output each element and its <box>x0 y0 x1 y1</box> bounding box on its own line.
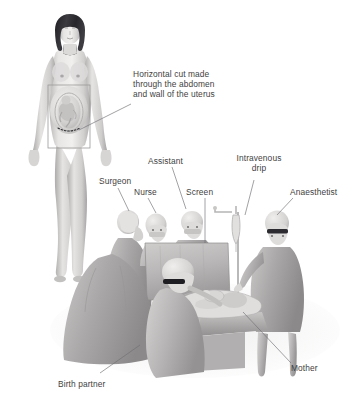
anaesthetist-eye-left <box>271 235 273 237</box>
left-foot <box>54 276 66 282</box>
label-nurse: Nurse <box>134 187 157 197</box>
left-nipple <box>60 74 64 77</box>
left-breast <box>52 62 70 82</box>
right-hand <box>101 150 112 166</box>
label-anaesthetist: Anaesthetist <box>290 187 337 197</box>
right-breast <box>70 62 88 82</box>
caesarean-illustration <box>0 0 361 404</box>
right-nipple <box>76 74 80 77</box>
assistant-eye-right <box>196 226 198 228</box>
left-hand <box>29 150 40 166</box>
label-intravenous-drip: Intravenousdrip <box>228 153 290 173</box>
anaesthetist-eye-right <box>282 235 284 237</box>
leaning-surgeon-mask <box>163 279 185 284</box>
label-screen: Screen <box>186 187 213 197</box>
neck <box>63 44 77 55</box>
label-surgeon: Surgeon <box>99 176 131 186</box>
fetus-head <box>61 95 70 104</box>
fetus-in-utero <box>55 93 83 131</box>
label-assistant: Assistant <box>148 156 183 166</box>
nurse-eye-right <box>160 229 162 231</box>
assistant-eye-left <box>187 226 189 228</box>
nurse-eye-left <box>152 229 154 231</box>
label-horizontal-cut: Horizontal cut madethrough the abdomenan… <box>133 69 215 100</box>
mother-head-area <box>221 292 247 308</box>
anaesthetist-mask <box>267 229 288 233</box>
label-mother: Mother <box>291 363 318 373</box>
label-birth-partner: Birth partner <box>58 379 105 389</box>
assistant-mask <box>184 229 201 234</box>
nurse-mask <box>149 232 165 237</box>
